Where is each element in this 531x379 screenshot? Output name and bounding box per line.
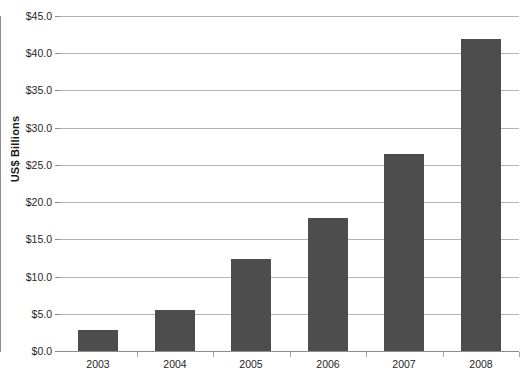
y-axis-tick-label: $40.0 — [4, 48, 52, 58]
y-axis-title: US$ Billions — [9, 89, 27, 209]
bar — [78, 330, 118, 351]
bar — [231, 259, 271, 351]
bars-group — [60, 16, 519, 351]
y-axis-tick-label: $20.0 — [4, 197, 52, 207]
y-axis-tick-label: $45.0 — [4, 11, 52, 21]
x-axis-tick-label: 2008 — [451, 358, 511, 370]
y-axis-tick-label: $15.0 — [4, 234, 52, 244]
x-axis-tick-mark — [366, 352, 367, 357]
y-axis-line — [0, 16, 1, 352]
bar — [308, 218, 348, 351]
x-axis-tick-mark — [137, 352, 138, 357]
x-axis-tick-mark — [290, 352, 291, 357]
x-axis-tick-mark — [213, 352, 214, 357]
y-axis-tick-label: $35.0 — [4, 85, 52, 95]
y-axis-tick-label: $30.0 — [4, 123, 52, 133]
bar — [461, 39, 501, 351]
y-axis-tick-label: $25.0 — [4, 160, 52, 170]
y-axis-tick-label: $0.0 — [4, 346, 52, 356]
x-axis-tick-label: 2007 — [374, 358, 434, 370]
x-axis-tick-label: 2006 — [298, 358, 358, 370]
x-axis-tick-label: 2005 — [221, 358, 281, 370]
bar-chart: US$ Billions $0.0$5.0$10.0$15.0$20.0$25.… — [0, 0, 531, 379]
x-axis-tick-label: 2003 — [68, 358, 128, 370]
x-axis-tick-mark — [443, 352, 444, 357]
bar — [155, 310, 195, 351]
bar — [384, 154, 424, 351]
y-axis-tick-label: $5.0 — [4, 309, 52, 319]
y-axis-tick-label: $10.0 — [4, 272, 52, 282]
x-axis-tick-mark — [519, 352, 520, 357]
x-axis-tick-label: 2004 — [145, 358, 205, 370]
